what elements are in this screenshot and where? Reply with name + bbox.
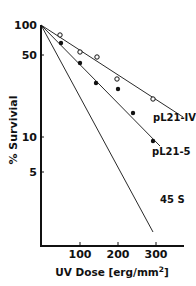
x-axis-title: UV Dose [erg/mm2]: [55, 265, 169, 278]
y-tick-50: 50: [22, 49, 38, 62]
y-tick-10: 10: [22, 131, 38, 144]
y-tick-5: 5: [29, 166, 37, 179]
survival-chart: 100 50 10 5 100 200 300 % Survivial UV D…: [0, 0, 196, 286]
label-pL21-5: pL21-5: [152, 146, 191, 157]
x-tick-300: 300: [145, 248, 168, 261]
label-pL21-IV: pL21-IV: [153, 112, 196, 123]
x-tick-100: 100: [69, 248, 92, 261]
label-45S: 45 S: [160, 194, 185, 205]
y-axis-title: % Survivial: [7, 95, 20, 164]
line-pL21-IV: [41, 25, 183, 117]
y-tick-100: 100: [14, 19, 37, 32]
x-tick-200: 200: [107, 248, 130, 261]
